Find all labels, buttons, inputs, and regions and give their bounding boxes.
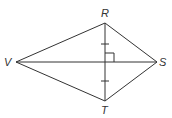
vertex-label-r: R	[101, 7, 109, 19]
right-angle-marker	[105, 53, 114, 62]
kite-diagram: R V S T	[0, 0, 172, 118]
side-vr	[16, 23, 105, 62]
vertex-label-s: S	[159, 56, 167, 68]
side-st	[105, 62, 157, 101]
vertex-label-v: V	[4, 56, 13, 68]
side-tv	[16, 62, 105, 101]
side-rs	[105, 23, 157, 62]
vertex-label-t: T	[101, 104, 109, 116]
